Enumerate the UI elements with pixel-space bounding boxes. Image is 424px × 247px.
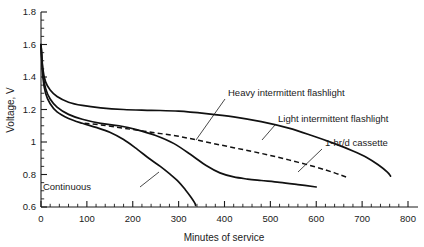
annotation-leader-line (196, 99, 225, 140)
svg-text:1: 1 (31, 136, 36, 147)
annotation-label: Continuous (43, 181, 91, 192)
chart-series-curves (41, 45, 391, 206)
annotation-label: 1-hr/d cassette (325, 137, 388, 148)
svg-text:0.8: 0.8 (23, 169, 36, 180)
annotation-label: Heavy intermittent flashlight (228, 87, 345, 98)
svg-text:700: 700 (354, 213, 370, 224)
chart-axes (41, 12, 418, 207)
svg-text:600: 600 (308, 213, 324, 224)
annotation-label: Light intermittent flashlight (278, 113, 389, 124)
series-curve (41, 45, 316, 188)
svg-text:100: 100 (79, 213, 95, 224)
svg-text:1.4: 1.4 (23, 71, 36, 82)
svg-text:1.2: 1.2 (23, 104, 36, 115)
svg-text:1.8: 1.8 (23, 6, 36, 17)
svg-text:0.6: 0.6 (23, 201, 36, 212)
chart-series-annotations: Heavy intermittent flashlightLight inter… (43, 87, 389, 192)
svg-text:800: 800 (400, 213, 416, 224)
svg-text:200: 200 (125, 213, 141, 224)
annotation-leader-line (262, 125, 275, 140)
svg-text:500: 500 (262, 213, 278, 224)
y-axis-title: Voltage, V (5, 87, 16, 133)
chart-plot-area: 0.60.811.21.41.61.8010020030040050060070… (0, 0, 424, 247)
series-curve (85, 123, 346, 177)
svg-text:1.6: 1.6 (23, 39, 36, 50)
series-curve (41, 45, 391, 177)
svg-text:0: 0 (38, 213, 43, 224)
x-axis-title: Minutes of service (184, 232, 265, 243)
svg-text:400: 400 (217, 213, 233, 224)
annotation-leader-line (140, 172, 159, 187)
chart-figure: 0.60.811.21.41.61.8010020030040050060070… (0, 0, 424, 247)
svg-text:300: 300 (171, 213, 187, 224)
